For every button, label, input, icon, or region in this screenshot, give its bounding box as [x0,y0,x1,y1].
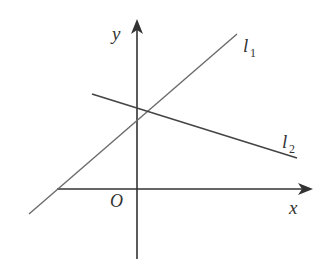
l1-label: l 1 [243,35,256,60]
line-l2 [92,94,297,158]
y-axis-label: y [110,23,121,44]
l1-letter: l [243,35,248,56]
diagram-svg: y x O l 1 l 2 [0,0,333,271]
l2-letter: l [282,131,287,152]
coordinate-diagram: y x O l 1 l 2 [0,0,333,271]
origin-label: O [110,191,123,211]
l2-subscript: 2 [289,142,295,156]
l1-subscript: 1 [250,46,256,60]
x-axis-label: x [288,197,298,218]
l2-label: l 2 [282,131,295,156]
y-axis [131,19,143,259]
line-l1 [29,34,237,214]
x-axis [57,183,313,195]
